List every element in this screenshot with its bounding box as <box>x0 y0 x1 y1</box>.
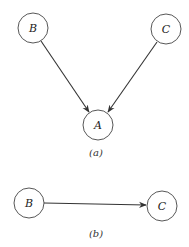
caption-a: (a) <box>89 147 103 158</box>
node-c: C <box>151 14 181 44</box>
diagram-a: B C A (a) <box>18 13 181 158</box>
edge-b-to-c <box>44 203 146 205</box>
node-b: B <box>14 188 44 218</box>
diagram-canvas: B C A (a) B C (b) <box>0 0 189 247</box>
node-a: A <box>83 110 113 140</box>
edge-b-to-a <box>41 41 89 112</box>
node-b: B <box>18 13 48 43</box>
node-c-label: C <box>162 23 171 36</box>
node-c-label: C <box>158 200 167 213</box>
caption-b: (b) <box>89 228 103 239</box>
node-b-label: B <box>24 197 33 210</box>
diagram-b: B C (b) <box>14 188 177 239</box>
node-b-label: B <box>28 22 37 35</box>
node-a-label: A <box>93 119 102 132</box>
node-c: C <box>147 191 177 221</box>
edge-c-to-a <box>108 42 157 112</box>
